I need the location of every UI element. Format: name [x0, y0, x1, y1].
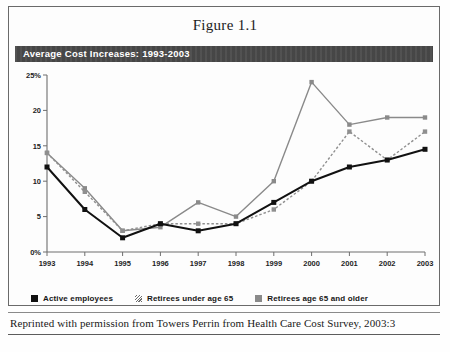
legend-item-active-employees: Active employees — [31, 294, 113, 303]
legend-marker-hatched-square-icon — [135, 295, 142, 302]
chart-banner-title: Average Cost Increases: 1993-2003 — [23, 47, 190, 61]
svg-text:0%: 0% — [30, 248, 41, 257]
figure-frame: Figure 1.1 Average Cost Increases: 1993-… — [8, 6, 440, 306]
svg-text:2001: 2001 — [341, 259, 358, 268]
figure-source-footer: Reprinted with permission from Towers Pe… — [8, 312, 440, 335]
figure-page: Figure 1.1 Average Cost Increases: 1993-… — [0, 0, 450, 352]
svg-text:20: 20 — [33, 106, 41, 115]
svg-text:1996: 1996 — [152, 259, 169, 268]
legend-item-retirees-65-and-older: Retirees age 65 and older — [255, 294, 368, 303]
legend-marker-square-icon — [31, 295, 38, 302]
chart-banner: Average Cost Increases: 1993-2003 — [15, 46, 433, 62]
svg-text:5: 5 — [37, 212, 41, 221]
svg-text:2003: 2003 — [417, 259, 434, 268]
svg-text:1995: 1995 — [114, 259, 131, 268]
svg-text:2000: 2000 — [303, 259, 320, 268]
legend-label: Retirees under age 65 — [147, 294, 233, 303]
svg-text:15: 15 — [33, 142, 41, 151]
legend-marker-grey-square-icon — [255, 295, 262, 302]
legend-label: Retirees age 65 and older — [267, 294, 368, 303]
svg-text:1994: 1994 — [76, 259, 94, 268]
svg-text:2002: 2002 — [379, 259, 396, 268]
legend-item-retirees-under-65: Retirees under age 65 — [135, 294, 233, 303]
svg-text:1998: 1998 — [228, 259, 245, 268]
svg-text:1999: 1999 — [265, 259, 282, 268]
legend-label: Active employees — [43, 294, 113, 303]
source-note: Reprinted with permission from Towers Pe… — [10, 317, 440, 329]
svg-text:1997: 1997 — [190, 259, 207, 268]
svg-text:1993: 1993 — [39, 259, 56, 268]
chart-plot-area: 0%510152025%1993199419951996199719981999… — [15, 67, 435, 282]
figure-title: Figure 1.1 — [9, 17, 441, 34]
line-chart: 0%510152025%1993199419951996199719981999… — [15, 67, 435, 282]
svg-text:10: 10 — [33, 177, 41, 186]
svg-text:25%: 25% — [26, 71, 41, 80]
chart-legend: Active employees Retirees under age 65 R… — [31, 291, 431, 305]
